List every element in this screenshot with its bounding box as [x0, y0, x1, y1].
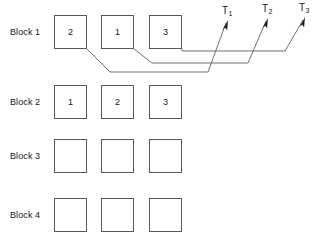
block-3-cell-1[interactable]	[54, 139, 87, 173]
block-1-cell-1[interactable]: 2	[54, 15, 87, 49]
diagram-canvas: Block 1 2 1 3 Block 2 1 2 3 Block 3 Bloc…	[0, 0, 321, 247]
terminal-label-T2: T2	[262, 4, 272, 14]
block-3-cell-3[interactable]	[149, 139, 182, 173]
block-1-cell-2[interactable]: 1	[101, 15, 134, 49]
block-2-cell-3[interactable]: 3	[149, 85, 182, 119]
arrowhead-T2-icon	[263, 18, 268, 28]
block-1-cell-1-value: 2	[68, 28, 73, 37]
block-label-1: Block 1	[10, 28, 40, 37]
block-label-2: Block 2	[10, 98, 40, 107]
terminal-label-T1-sub: 1	[228, 10, 232, 17]
arrowhead-T1-icon	[223, 20, 228, 30]
block-label-4: Block 4	[10, 211, 40, 220]
block-2-cell-2[interactable]: 2	[101, 85, 134, 119]
block-label-3: Block 3	[10, 152, 40, 161]
block-2-cell-2-value: 2	[115, 98, 120, 107]
block-2-cell-3-value: 3	[163, 98, 168, 107]
terminal-label-T2-sub: 2	[268, 8, 272, 15]
block-1-cell-3-value: 3	[163, 28, 168, 37]
arrowhead-T3-icon	[300, 17, 305, 27]
block-3-cell-2[interactable]	[101, 139, 134, 173]
terminal-label-T3: T3	[299, 3, 309, 13]
terminal-label-T1: T1	[222, 6, 232, 16]
block-2-cell-1[interactable]: 1	[54, 85, 87, 119]
block-4-cell-3[interactable]	[149, 198, 182, 232]
block-4-cell-2[interactable]	[101, 198, 134, 232]
terminal-label-T3-sub: 3	[305, 7, 309, 14]
connector-block1-cell3-to-T3	[182, 20, 303, 51]
block-1-cell-2-value: 1	[115, 28, 120, 37]
block-2-cell-1-value: 1	[68, 98, 73, 107]
block-4-cell-1[interactable]	[54, 198, 87, 232]
block-1-cell-3[interactable]: 3	[149, 15, 182, 49]
